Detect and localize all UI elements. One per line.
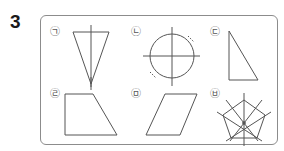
figures-canvas (0, 0, 284, 151)
parallelogram-figure (146, 94, 197, 135)
pentagon-figure (217, 93, 271, 146)
circle-figure (143, 27, 200, 86)
right-triangle-figure (229, 31, 258, 80)
trapezoid-figure (65, 77, 117, 135)
